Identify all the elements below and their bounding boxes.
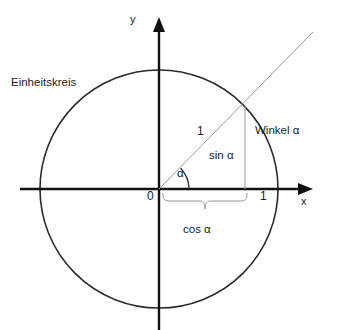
label-cosine: cos α bbox=[183, 224, 211, 236]
label-unit-circle: Einheitskreis bbox=[11, 77, 76, 89]
label-axis-y: y bbox=[130, 14, 136, 25]
label-sine: sin α bbox=[209, 150, 234, 162]
label-radius: 1 bbox=[197, 125, 204, 137]
label-alpha: α bbox=[177, 168, 184, 180]
label-angle-name: Winkel α bbox=[255, 125, 299, 137]
label-axis-x: x bbox=[301, 196, 307, 207]
canvas-background bbox=[0, 0, 338, 330]
unit-circle-figure: Einheitskreis Winkel α 1 sin α cos α α 0… bbox=[0, 0, 338, 330]
label-x-tick-one: 1 bbox=[260, 190, 267, 202]
unit-circle-svg bbox=[0, 0, 338, 330]
label-origin: 0 bbox=[147, 190, 154, 202]
